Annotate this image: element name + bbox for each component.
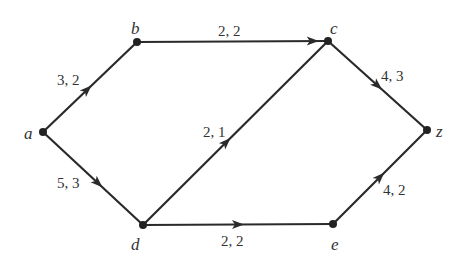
node-label-b: b [131, 20, 140, 37]
edge-line [137, 41, 328, 42]
node-label-z: z [436, 123, 443, 140]
node-label-c: c [330, 20, 338, 37]
node-c [324, 37, 332, 45]
node-a [39, 128, 47, 136]
edge-c-z [328, 41, 427, 130]
flow-network-diagram: 3, 25, 32, 22, 12, 24, 34, 2abczde [0, 0, 463, 267]
node-label-e: e [331, 236, 339, 253]
edge-label-e-z: 4, 2 [383, 183, 406, 198]
edge-d-c [143, 41, 328, 225]
edge-e-z [333, 130, 427, 224]
graph-canvas [0, 0, 463, 267]
node-e [329, 220, 337, 228]
edge-label-a-d: 5, 3 [57, 176, 80, 191]
edge-label-b-c: 2, 2 [218, 24, 241, 39]
node-label-d: d [131, 236, 140, 253]
node-z [423, 126, 431, 134]
edge-label-c-z: 4, 3 [381, 69, 404, 84]
edge-d-e [143, 220, 333, 229]
node-label-a: a [24, 125, 33, 142]
node-b [133, 38, 141, 46]
edge-label-d-c: 2, 1 [203, 125, 226, 140]
node-d [139, 221, 147, 229]
edge-label-a-b: 3, 2 [57, 73, 80, 88]
edge-label-d-e: 2, 2 [221, 234, 244, 249]
edge-line [143, 41, 328, 225]
